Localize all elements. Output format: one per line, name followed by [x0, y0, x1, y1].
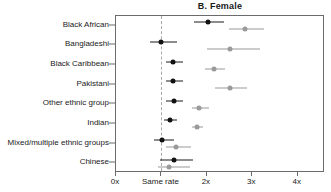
- y-axis-label: Indian: [87, 119, 109, 127]
- data-point: [194, 125, 199, 130]
- data-point: [211, 66, 216, 71]
- confidence-interval-line: [158, 166, 190, 167]
- data-point: [196, 105, 201, 110]
- y-axis: Black AfricanBangladeshiBlack CaribbeanP…: [0, 15, 109, 172]
- x-axis-tick: [115, 172, 116, 176]
- x-axis-label: 4x: [293, 178, 301, 186]
- data-point: [166, 164, 171, 169]
- y-axis-label: Black Caribbean: [50, 60, 109, 68]
- data-point: [227, 86, 232, 91]
- x-axis-tick: [297, 172, 298, 176]
- y-axis-label: Bangladeshi: [65, 40, 109, 48]
- chart-figure: B. Female Black AfricanBangladeshiBlack …: [0, 0, 331, 192]
- plot-area: [115, 15, 324, 172]
- data-point: [170, 59, 175, 64]
- x-axis-label: 0x: [111, 178, 119, 186]
- x-axis: 0xSame rate2x3x4x: [0, 172, 331, 192]
- data-point: [205, 20, 210, 25]
- chart-title: B. Female: [115, 1, 325, 11]
- y-axis-label: Other ethnic group: [43, 99, 109, 107]
- x-axis-label: 2x: [202, 178, 210, 186]
- x-axis-label: Same rate: [142, 178, 179, 186]
- data-point: [170, 79, 175, 84]
- y-axis-label: Pakistani: [77, 80, 109, 88]
- confidence-interval-line: [207, 48, 261, 49]
- data-point: [159, 39, 164, 44]
- data-point: [171, 157, 176, 162]
- y-axis-label: Black African: [63, 21, 109, 29]
- x-axis-tick: [251, 172, 252, 176]
- data-point: [227, 46, 232, 51]
- data-point: [243, 27, 248, 32]
- x-axis-tick: [160, 172, 161, 176]
- data-point: [171, 98, 176, 103]
- y-axis-label: Chinese: [80, 158, 109, 166]
- data-point: [167, 118, 172, 123]
- y-axis-label: Mixed/multiple ethnic groups: [8, 139, 109, 147]
- x-axis-label: 3x: [247, 178, 255, 186]
- confidence-interval-line: [160, 159, 194, 160]
- data-point: [160, 138, 165, 143]
- x-axis-tick: [206, 172, 207, 176]
- data-point: [173, 145, 178, 150]
